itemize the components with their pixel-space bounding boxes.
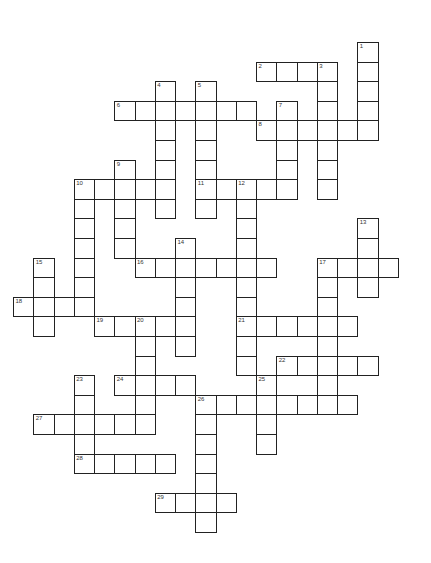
crossword-cell[interactable] [236, 395, 257, 416]
crossword-cell[interactable] [256, 316, 277, 337]
crossword-cell[interactable]: 3 [317, 62, 338, 83]
crossword-cell[interactable] [236, 336, 257, 357]
crossword-cell[interactable] [317, 140, 338, 161]
crossword-cell[interactable] [74, 218, 95, 239]
crossword-cell[interactable] [357, 238, 378, 259]
crossword-cell[interactable] [337, 258, 358, 279]
crossword-cell[interactable] [317, 356, 338, 377]
crossword-cell[interactable] [114, 454, 135, 475]
crossword-cell[interactable]: 7 [276, 101, 297, 122]
crossword-cell[interactable] [357, 258, 378, 279]
crossword-cell[interactable] [276, 160, 297, 181]
crossword-cell[interactable] [195, 258, 216, 279]
crossword-cell[interactable]: 12 [236, 179, 257, 200]
crossword-cell[interactable] [74, 395, 95, 416]
crossword-cell[interactable] [135, 179, 156, 200]
crossword-cell[interactable] [195, 414, 216, 435]
crossword-cell[interactable] [236, 238, 257, 259]
crossword-cell[interactable] [175, 336, 196, 357]
crossword-cell[interactable] [357, 81, 378, 102]
crossword-cell[interactable] [175, 277, 196, 298]
crossword-cell[interactable] [114, 316, 135, 337]
crossword-cell[interactable] [175, 101, 196, 122]
crossword-cell[interactable]: 21 [236, 316, 257, 337]
crossword-cell[interactable] [256, 434, 277, 455]
crossword-cell[interactable] [155, 258, 176, 279]
crossword-cell[interactable] [175, 375, 196, 396]
crossword-cell[interactable] [155, 160, 176, 181]
crossword-cell[interactable] [357, 62, 378, 83]
crossword-cell[interactable] [155, 101, 176, 122]
crossword-cell[interactable] [94, 414, 115, 435]
crossword-cell[interactable] [74, 297, 95, 318]
crossword-cell[interactable] [175, 493, 196, 514]
crossword-cell[interactable] [94, 454, 115, 475]
crossword-cell[interactable] [114, 179, 135, 200]
crossword-cell[interactable]: 17 [317, 258, 338, 279]
crossword-cell[interactable]: 22 [276, 356, 297, 377]
crossword-cell[interactable] [195, 434, 216, 455]
crossword-cell[interactable]: 8 [256, 120, 277, 141]
crossword-cell[interactable] [94, 179, 115, 200]
crossword-cell[interactable]: 11 [195, 179, 216, 200]
crossword-cell[interactable] [276, 62, 297, 83]
crossword-cell[interactable] [155, 179, 176, 200]
crossword-cell[interactable] [216, 179, 237, 200]
crossword-cell[interactable] [337, 395, 358, 416]
crossword-cell[interactable] [357, 356, 378, 377]
crossword-cell[interactable] [317, 316, 338, 337]
crossword-cell[interactable] [297, 120, 318, 141]
crossword-cell[interactable] [236, 258, 257, 279]
crossword-cell[interactable] [357, 120, 378, 141]
crossword-cell[interactable] [297, 62, 318, 83]
crossword-cell[interactable] [155, 140, 176, 161]
crossword-cell[interactable] [74, 199, 95, 220]
crossword-cell[interactable] [236, 218, 257, 239]
crossword-cell[interactable] [175, 316, 196, 337]
crossword-cell[interactable] [216, 101, 237, 122]
crossword-cell[interactable] [276, 179, 297, 200]
crossword-cell[interactable] [114, 238, 135, 259]
crossword-cell[interactable] [297, 356, 318, 377]
crossword-cell[interactable] [155, 454, 176, 475]
crossword-cell[interactable] [155, 375, 176, 396]
crossword-cell[interactable] [195, 140, 216, 161]
crossword-cell[interactable] [135, 101, 156, 122]
crossword-cell[interactable] [195, 101, 216, 122]
crossword-cell[interactable] [317, 375, 338, 396]
crossword-cell[interactable] [195, 199, 216, 220]
crossword-cell[interactable]: 28 [74, 454, 95, 475]
crossword-cell[interactable]: 16 [135, 258, 156, 279]
crossword-cell[interactable] [256, 395, 277, 416]
crossword-cell[interactable] [317, 179, 338, 200]
crossword-cell[interactable] [236, 277, 257, 298]
crossword-cell[interactable] [155, 120, 176, 141]
crossword-cell[interactable] [317, 120, 338, 141]
crossword-cell[interactable]: 27 [33, 414, 54, 435]
crossword-cell[interactable] [297, 316, 318, 337]
crossword-cell[interactable]: 2 [256, 62, 277, 83]
crossword-cell[interactable] [135, 395, 156, 416]
crossword-cell[interactable] [135, 336, 156, 357]
crossword-cell[interactable]: 20 [135, 316, 156, 337]
crossword-cell[interactable] [175, 297, 196, 318]
crossword-cell[interactable] [276, 120, 297, 141]
crossword-cell[interactable] [378, 258, 399, 279]
crossword-cell[interactable] [54, 414, 75, 435]
crossword-cell[interactable] [317, 297, 338, 318]
crossword-cell[interactable] [337, 316, 358, 337]
crossword-cell[interactable] [317, 81, 338, 102]
crossword-cell[interactable]: 18 [13, 297, 34, 318]
crossword-cell[interactable] [337, 120, 358, 141]
crossword-cell[interactable] [276, 395, 297, 416]
crossword-cell[interactable] [317, 101, 338, 122]
crossword-cell[interactable]: 24 [114, 375, 135, 396]
crossword-cell[interactable] [236, 199, 257, 220]
crossword-cell[interactable] [135, 414, 156, 435]
crossword-cell[interactable] [236, 101, 257, 122]
crossword-cell[interactable] [114, 414, 135, 435]
crossword-cell[interactable] [135, 356, 156, 377]
crossword-cell[interactable] [236, 356, 257, 377]
crossword-cell[interactable] [276, 140, 297, 161]
crossword-cell[interactable] [74, 434, 95, 455]
